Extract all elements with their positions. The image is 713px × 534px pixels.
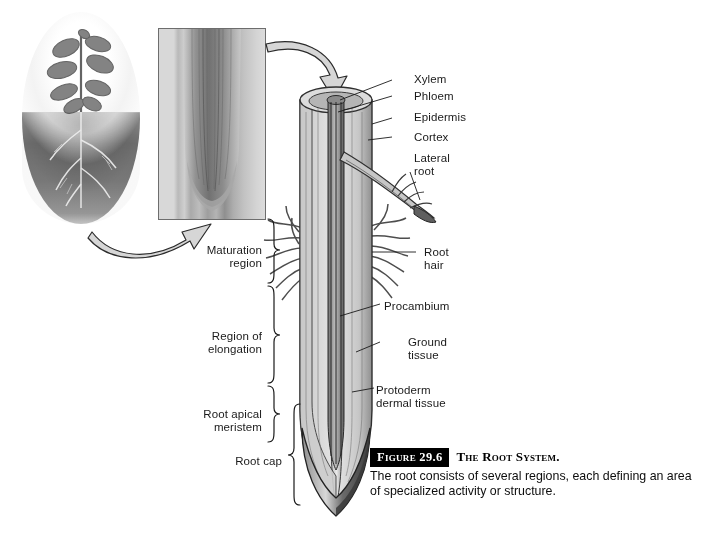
label-maturation-region: Maturation region (168, 244, 262, 269)
root-body (300, 87, 372, 516)
label-region-of-elongation: Region of elongation (168, 330, 262, 355)
figure-caption: Figure 29.6 The Root System. The root co… (370, 448, 695, 499)
label-root-hair: Root hair (424, 246, 449, 271)
caption-header: Figure 29.6 The Root System. (370, 448, 695, 467)
figure-number-badge: Figure 29.6 (370, 448, 449, 467)
root-system-figure: Xylem Phloem Epidermis Cortex Lateral ro… (0, 0, 713, 534)
label-root-cap: Root cap (176, 455, 282, 468)
label-epidermis: Epidermis (414, 111, 466, 124)
bracket-elongation (268, 286, 280, 383)
figure-title: The Root System. (456, 449, 559, 465)
label-xylem: Xylem (414, 73, 446, 86)
bracket-root-cap (288, 404, 300, 505)
label-ground-tissue: Ground tissue (408, 336, 447, 361)
label-phloem: Phloem (414, 90, 454, 103)
label-lateral-root: Lateral root (414, 152, 450, 177)
label-cortex: Cortex (414, 131, 448, 144)
label-root-apical-meristem: Root apical meristem (164, 408, 262, 433)
label-protoderm: Protoderm dermal tissue (376, 384, 446, 409)
figure-caption-body: The root consists of several regions, ea… (370, 469, 695, 499)
bracket-meristem (268, 386, 280, 442)
label-procambium: Procambium (384, 300, 450, 313)
